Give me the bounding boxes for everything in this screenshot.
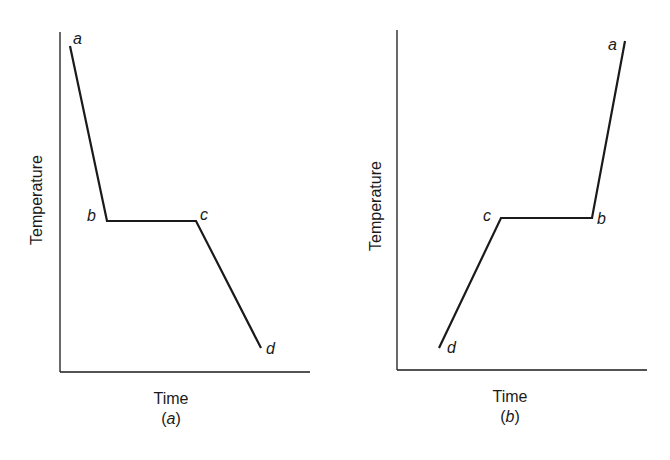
panel-caption: (a) — [161, 410, 181, 427]
x-axis-label: Time — [493, 388, 528, 405]
point-label-a: a — [73, 30, 82, 47]
panel-a: a b c d Temperature Time (a) — [28, 30, 310, 427]
panel-b: a b c d Temperature Time (b) — [367, 30, 647, 425]
point-label-d: d — [447, 339, 457, 356]
point-label-c: c — [483, 207, 491, 224]
point-label-c: c — [200, 206, 208, 223]
heating-curve — [439, 41, 625, 348]
x-axis-label: Time — [154, 390, 189, 407]
cooling-heating-curves-figure: a b c d Temperature Time (a) a b c d Tem… — [0, 0, 670, 460]
panel-caption: (b) — [500, 408, 520, 425]
point-label-b: b — [597, 210, 606, 227]
point-label-b: b — [87, 207, 96, 224]
y-axis-label: Temperature — [28, 155, 45, 245]
point-label-a: a — [608, 36, 617, 53]
cooling-curve — [70, 46, 261, 348]
y-axis-label: Temperature — [367, 161, 384, 251]
point-label-d: d — [266, 340, 276, 357]
